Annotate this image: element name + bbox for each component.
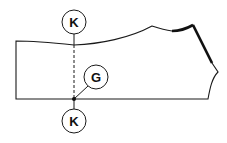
pattern-outline xyxy=(16,25,218,99)
connector-g xyxy=(74,86,88,99)
bold-edge-shoulder xyxy=(172,25,193,31)
bold-edge-armhole xyxy=(193,25,212,63)
label-k-bottom: K xyxy=(62,109,86,133)
pattern-diagram: K G K xyxy=(0,0,227,143)
point-dot xyxy=(72,97,76,101)
label-g: G xyxy=(84,65,108,89)
label-k-bottom-text: K xyxy=(69,114,79,129)
label-k-top-text: K xyxy=(69,15,79,30)
label-g-text: G xyxy=(91,70,101,85)
label-k-top: K xyxy=(62,10,86,34)
